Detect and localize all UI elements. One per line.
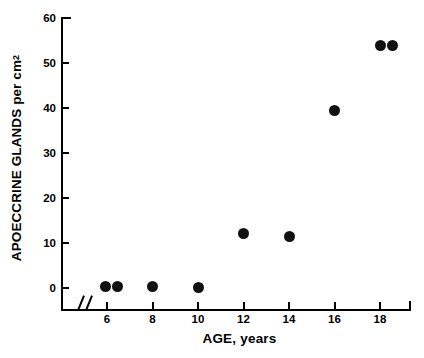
y-tick-label: 40	[16, 102, 56, 114]
x-tick-mark	[152, 302, 154, 310]
x-tick-label: 18	[360, 313, 400, 325]
x-tick-label: 16	[315, 313, 355, 325]
x-tick-label: 8	[133, 313, 173, 325]
data-point	[112, 281, 123, 292]
data-point	[329, 105, 340, 116]
y-tick-mark	[63, 62, 69, 64]
data-point	[387, 40, 398, 51]
y-tick-label: 60	[16, 12, 56, 24]
y-tick-mark	[63, 152, 69, 154]
y-tick-label: 30	[16, 147, 56, 159]
y-tick-mark	[63, 17, 71, 19]
y-tick-label: 10	[16, 237, 56, 249]
x-tick-label: 12	[224, 313, 264, 325]
x-tick-mark	[379, 302, 381, 310]
data-point	[238, 228, 249, 239]
data-point	[193, 282, 204, 293]
y-tick-label: 20	[16, 192, 56, 204]
x-tick-label: 6	[87, 313, 127, 325]
y-tick-mark	[63, 107, 69, 109]
x-axis-line	[61, 309, 411, 311]
x-tick-mark	[106, 302, 108, 310]
x-axis-end-cap	[409, 301, 411, 310]
data-point	[375, 40, 386, 51]
y-tick-mark	[63, 197, 69, 199]
y-tick-mark	[63, 242, 69, 244]
plot-area: 0102030405060 681012141618	[0, 0, 424, 358]
data-point	[147, 281, 158, 292]
x-tick-label: 10	[178, 313, 218, 325]
y-tick-label: 0	[16, 282, 56, 294]
y-tick-mark	[63, 287, 69, 289]
data-point	[284, 231, 295, 242]
x-tick-mark	[243, 302, 245, 310]
scatter-chart-figure: APOECCRINE GLANDS per cm2 AGE, years 010…	[0, 0, 424, 358]
y-tick-label: 50	[16, 57, 56, 69]
data-point	[100, 281, 111, 292]
x-tick-mark	[288, 302, 290, 310]
x-tick-mark	[334, 302, 336, 310]
x-tick-mark	[197, 302, 199, 310]
x-tick-label: 14	[269, 313, 309, 325]
